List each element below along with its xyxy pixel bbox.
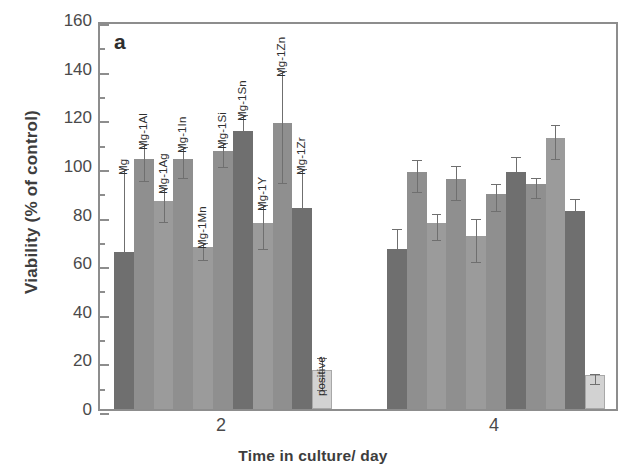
y-tick-major [100,316,109,318]
bar [407,172,427,409]
y-tick-minor [100,146,105,148]
y-tick-label: 0 [42,400,92,420]
y-tick-label: 120 [42,108,92,128]
error-bar [476,219,477,263]
error-bar-cap [491,184,501,185]
error-bar-cap [511,157,521,158]
error-bar-cap [412,192,422,193]
bar [154,201,174,409]
y-tick-label: 100 [42,157,92,177]
y-tick-major [100,364,109,366]
panel-label: a [114,30,126,54]
plot-area: a MgMg-1AlMg-1AgMg-1InMg-1MnMg-1SiMg-1Sn… [98,22,618,411]
x-axis-title: Time in culture/ day [0,447,626,465]
error-bar-cap [570,199,580,200]
error-bar-cap [531,178,541,179]
figure-panel-a: Viability (% of control) Time in culture… [0,0,626,473]
error-bar [417,160,418,192]
error-bar-cap [178,178,188,179]
error-bar [595,374,596,384]
error-bar-cap [471,219,481,220]
bar [173,159,193,409]
bar-label: positive [315,356,327,396]
error-bar-cap [258,249,268,250]
error-bar-cap [198,260,208,261]
error-bar [456,166,457,200]
y-tick-label: 140 [42,60,92,80]
error-bar-cap [218,167,228,168]
error-bar-cap [551,125,561,126]
error-bar [516,157,517,196]
bar [193,247,213,409]
error-bar-cap [159,222,169,223]
error-bar-cap [570,231,580,232]
bar [213,151,233,409]
bar [114,252,134,409]
bar-label: Mg-1Ag [157,153,169,194]
error-bar-cap [451,200,461,201]
error-bar [575,199,576,231]
error-bar-cap [392,276,402,277]
bar-label: Mg [117,158,129,174]
y-tick-major [100,24,109,26]
error-bar [555,125,556,159]
bar [446,179,466,409]
error-bar-cap [238,154,248,155]
bar [506,172,526,409]
error-bar [263,205,264,249]
error-bar-cap [297,256,307,257]
error-bar-cap [531,198,541,199]
error-bar-cap [278,183,288,184]
y-tick-major [100,267,109,269]
bar [565,211,585,409]
error-bar [496,184,497,211]
error-bar-cap [392,229,402,230]
error-bar-cap [432,240,442,241]
bar-label: Mg-1In [176,116,188,152]
y-tick-major [100,170,109,172]
bar [233,131,253,409]
bar [134,159,154,409]
bar [253,223,273,409]
x-tick-label: 2 [191,415,251,436]
y-tick-minor [100,194,105,196]
bar-label: Mg-1Mn [196,206,208,249]
error-bar [302,169,303,257]
bar-label: Mg-1Sn [236,80,248,121]
y-tick-label: 60 [42,254,92,274]
y-tick-label: 40 [42,303,92,323]
error-bar [397,229,398,275]
error-bar-cap [432,214,442,215]
y-tick-minor [100,243,105,245]
bar-label: Mg-1Y [256,177,268,211]
bar [486,194,506,409]
error-bar-cap [412,160,422,161]
bar [526,184,546,409]
error-bar [124,169,125,257]
y-tick-major [100,73,109,75]
y-tick-major [100,219,109,221]
error-bar-cap [139,181,149,182]
error-bar-cap [491,211,501,212]
error-bar [437,214,438,241]
y-tick-minor [100,97,105,99]
error-bar-cap [511,195,521,196]
error-bar-cap [451,166,461,167]
bar-label: Mg-1Zn [275,37,287,77]
bar-label: Mg-1Zr [295,137,307,175]
y-tick-minor [100,291,105,293]
y-axis-title: Viability (% of control) [22,52,42,352]
y-tick-minor [100,340,105,342]
error-bar-cap [590,374,600,375]
error-bar-cap [551,159,561,160]
y-tick-label: 20 [42,351,92,371]
y-tick-major [100,121,109,123]
error-bar [536,178,537,197]
y-tick-minor [100,389,105,391]
y-tick-label: 160 [42,11,92,31]
error-bar-cap [590,384,600,385]
error-bar [243,115,244,154]
bar-label: Mg-1Al [137,113,149,150]
bar-label: Mg-1Si [216,112,228,149]
error-bar-cap [471,262,481,263]
